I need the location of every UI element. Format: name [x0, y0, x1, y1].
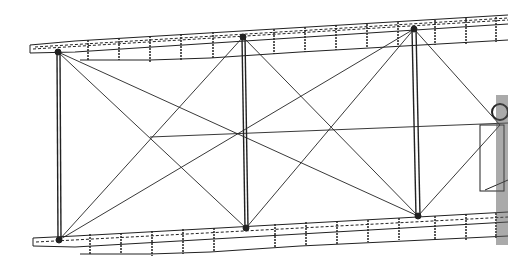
- lower-wing: [33, 212, 508, 256]
- bracing-wires: [58, 29, 508, 240]
- strut-fittings: [55, 26, 421, 243]
- edge-shadow: [496, 95, 508, 245]
- wing-drawing: [0, 0, 508, 274]
- wing-structure-diagram: Biplane wing bay structure line drawing: [0, 0, 508, 274]
- upper-wing: [30, 15, 508, 62]
